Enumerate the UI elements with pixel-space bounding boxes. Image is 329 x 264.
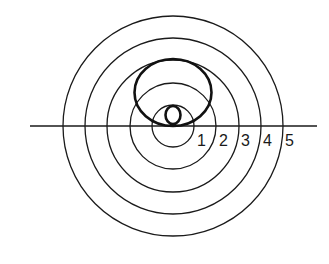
ring-label-3: 3 xyxy=(241,132,250,149)
ring-label-2: 2 xyxy=(219,132,228,149)
ring-label-4: 4 xyxy=(263,132,272,149)
concentric-circles-diagram: 1 2 3 4 5 xyxy=(0,0,329,264)
ring-label-1: 1 xyxy=(197,132,206,149)
ring-label-5: 5 xyxy=(285,132,294,149)
small-loop xyxy=(166,106,181,124)
